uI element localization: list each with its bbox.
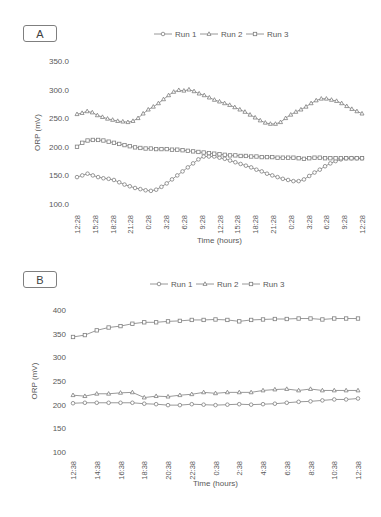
data-point-marker (329, 98, 333, 102)
data-point-marker (190, 402, 194, 406)
y-tick-label: 250 (53, 377, 67, 386)
x-tick-label: 12:28 (73, 215, 82, 234)
data-point-marker (314, 98, 318, 102)
data-point-marker (268, 122, 272, 126)
data-point-marker (95, 329, 98, 332)
data-point-marker (355, 109, 359, 113)
data-point-marker (202, 390, 206, 394)
data-point-marker (244, 164, 248, 168)
data-point-marker (329, 157, 332, 160)
data-point-marker (333, 317, 336, 320)
data-point-marker (344, 317, 347, 320)
data-point-marker (309, 387, 313, 391)
data-point-marker (154, 321, 157, 324)
data-point-marker (75, 175, 79, 179)
data-point-marker (223, 153, 226, 156)
data-point-marker (213, 152, 216, 155)
x-tick-label: 3:28 (305, 215, 314, 230)
data-point-marker (133, 146, 136, 149)
data-point-marker (261, 318, 264, 321)
data-point-marker (339, 157, 342, 160)
data-point-marker (167, 93, 171, 97)
data-point-marker (321, 399, 325, 403)
data-point-marker (160, 147, 163, 150)
legend-label: Run 2 (221, 30, 243, 39)
data-point-marker (139, 146, 142, 149)
data-point-marker (350, 157, 353, 160)
x-tick-label: 12:28 (216, 215, 225, 234)
data-point-marker (176, 148, 179, 151)
x-tick-label: 0:28 (287, 215, 296, 230)
x-tick-label: 18:28 (109, 215, 118, 234)
data-point-marker (83, 394, 87, 398)
data-point-marker (107, 177, 111, 181)
legend-marker-icon (161, 32, 165, 36)
data-point-marker (294, 110, 298, 114)
y-axis-title: ORP (mV) (30, 362, 39, 399)
x-tick-label: 15:28 (233, 215, 242, 234)
data-point-marker (253, 115, 257, 119)
data-point-marker (170, 178, 174, 182)
data-point-marker (265, 155, 268, 158)
data-point-marker (218, 99, 222, 103)
x-tick-label: 22:38 (188, 461, 197, 480)
data-point-marker (255, 168, 259, 172)
data-point-marker (313, 156, 316, 159)
chart-a: 100.0150.0200.0250.0300.0350.0ORP (mV)12… (0, 0, 381, 258)
y-tick-label: 250.0 (49, 114, 70, 123)
data-point-marker (228, 154, 231, 157)
x-tick-label: 12:38 (69, 461, 78, 480)
data-point-marker (71, 335, 74, 338)
legend-marker-icon (207, 32, 211, 36)
data-point-marker (75, 145, 78, 148)
data-point-marker (344, 157, 347, 160)
data-point-marker (356, 397, 360, 401)
data-point-marker (112, 141, 115, 144)
data-point-marker (139, 187, 143, 191)
data-point-marker (177, 88, 181, 92)
data-point-marker (281, 156, 284, 159)
data-point-marker (281, 177, 285, 181)
data-point-marker (154, 394, 158, 398)
data-point-marker (249, 166, 253, 170)
data-point-marker (297, 400, 301, 404)
data-point-marker (304, 105, 308, 109)
data-point-marker (156, 101, 160, 105)
data-point-marker (86, 139, 89, 142)
legend-label: Run 2 (217, 280, 239, 289)
data-point-marker (116, 119, 120, 123)
data-point-marker (162, 97, 166, 101)
x-axis-title: Time (hours) (197, 236, 242, 245)
data-point-marker (144, 147, 147, 150)
data-point-marker (302, 157, 305, 160)
x-tick-label: 21:28 (269, 215, 278, 234)
data-point-marker (186, 149, 189, 152)
x-tick-label: 0:38 (212, 461, 221, 476)
data-point-marker (313, 171, 317, 175)
data-point-marker (260, 170, 264, 174)
data-point-marker (309, 101, 313, 105)
data-point-marker (329, 162, 333, 166)
data-point-marker (106, 117, 110, 121)
data-point-marker (238, 320, 241, 323)
data-point-marker (117, 180, 121, 184)
data-point-marker (202, 318, 205, 321)
data-point-marker (166, 394, 170, 398)
data-point-marker (166, 320, 169, 323)
data-point-marker (234, 154, 237, 157)
data-point-marker (263, 121, 267, 125)
data-point-marker (181, 149, 184, 152)
data-point-marker (360, 157, 363, 160)
data-point-marker (261, 402, 265, 406)
data-point-marker (102, 139, 105, 142)
y-axis-title: ORP (mV) (33, 114, 42, 151)
data-point-marker (119, 401, 123, 405)
data-point-marker (154, 147, 157, 150)
y-tick-label: 150.0 (49, 171, 70, 180)
data-point-marker (226, 403, 230, 407)
x-tick-label: 18:28 (251, 215, 260, 234)
data-point-marker (228, 159, 232, 163)
data-point-marker (214, 403, 218, 407)
data-point-marker (297, 388, 301, 392)
y-tick-label: 100 (53, 448, 67, 457)
